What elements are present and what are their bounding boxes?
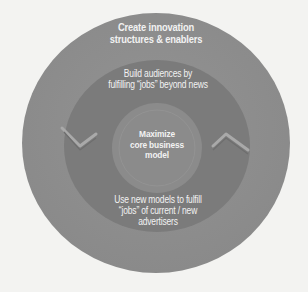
outer-label-line-2: structures & enablers xyxy=(103,33,208,45)
bottom-label-line-2: “jobs” of current / new xyxy=(105,205,210,216)
innovation-circles-diagram: Create innovation structures & enablers … xyxy=(0,0,308,292)
top-label-line-1: Build audiences by xyxy=(99,68,218,79)
outer-ring-label: Create innovation structures & enablers xyxy=(103,21,208,46)
core-label: Maximize core business model xyxy=(121,129,193,161)
bottom-label-line-1: Use new models to fulfill xyxy=(105,194,210,205)
top-label-line-2: fulfilling “jobs” beyond news xyxy=(99,79,218,90)
core-label-line-3: model xyxy=(121,150,193,161)
outer-label-line-1: Create innovation xyxy=(103,21,208,33)
bottom-label-line-3: advertisers xyxy=(105,216,210,227)
middle-ring-top-label: Build audiences by fulfilling “jobs” bey… xyxy=(99,68,218,90)
middle-ring-bottom-label: Use new models to fulfill “jobs” of curr… xyxy=(105,194,210,228)
